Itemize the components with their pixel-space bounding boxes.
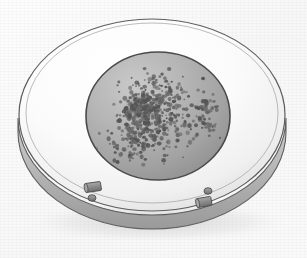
colony-dot [124, 106, 128, 110]
colony-dot [107, 130, 110, 133]
colony-dot [195, 133, 199, 137]
colony-dot [150, 101, 153, 104]
colony-dot [174, 115, 177, 119]
colony-dot [138, 84, 140, 86]
colony-dot [163, 76, 167, 80]
colony-dot [137, 100, 140, 103]
colony-dot [151, 137, 154, 140]
colony-dot [98, 132, 101, 135]
colony-dot [162, 112, 165, 114]
colony-dot [145, 122, 150, 127]
colony-dot [202, 91, 205, 94]
colony-dot [164, 86, 167, 89]
colony-dot [155, 115, 158, 118]
colony-dot [141, 99, 145, 102]
colony-dot [176, 94, 179, 97]
colony-dot [119, 114, 122, 116]
petri-dish-illustration [0, 0, 307, 258]
colony-dot [153, 149, 155, 151]
colony-dot [164, 93, 168, 97]
colony-dot [143, 91, 145, 93]
colony-dot [158, 75, 161, 78]
colony-dot [165, 114, 167, 116]
colony-dot [176, 127, 179, 130]
colony-dot [212, 93, 215, 96]
pellet-disc-left [88, 195, 96, 202]
colony-dot [109, 143, 111, 145]
colony-dot [167, 129, 169, 131]
colony-dot [187, 123, 192, 128]
colony-dot [145, 94, 148, 97]
colony-dot [146, 72, 148, 75]
pellet-disc-body [88, 195, 96, 202]
colony-dot [190, 103, 194, 107]
colony-dot [143, 67, 147, 70]
colony-dot [136, 109, 140, 113]
colony-dot [179, 132, 182, 136]
colony-dot [130, 137, 134, 141]
colony-dot [164, 124, 166, 126]
pellet-disc-body [204, 188, 212, 195]
colony-dot [190, 128, 192, 130]
colony-dot [160, 126, 163, 129]
colony-dot [117, 81, 120, 84]
colony-dot [144, 79, 146, 81]
colony-dot [146, 103, 149, 106]
colony-dot [136, 138, 139, 140]
colony-dot [155, 86, 159, 91]
colony-dot [144, 89, 146, 91]
colony-dot [199, 105, 203, 109]
colony-dot [123, 115, 125, 117]
colony-dot [198, 116, 202, 121]
colony-dot [177, 113, 180, 116]
colony-dot [113, 146, 116, 149]
colony-dot [144, 158, 147, 161]
colony-dot [152, 130, 154, 132]
colony-dot [132, 154, 134, 156]
colony-dot [134, 121, 139, 125]
colony-dot [204, 126, 206, 128]
colony-dot [203, 123, 205, 125]
colony-dot [172, 97, 174, 99]
colony-dot [208, 117, 211, 120]
colony-dot [203, 106, 208, 112]
colony-dot [184, 120, 187, 123]
colony-dot [126, 139, 128, 141]
colony-dot [127, 145, 129, 147]
colony-dot [156, 130, 160, 134]
colony-dot [196, 88, 199, 91]
colony-dot [116, 148, 119, 151]
pellet-disc-right [204, 188, 212, 195]
colony-dot [137, 93, 139, 95]
colony-dot [174, 103, 179, 108]
colony-dot [182, 107, 185, 110]
colony-dot [147, 97, 150, 101]
colony-dot [182, 113, 184, 115]
colony-dot [132, 116, 137, 121]
colony-dot [121, 134, 123, 136]
colony-dot [162, 147, 165, 150]
colony-dot [214, 123, 216, 125]
colony-dot [216, 105, 219, 108]
colony-dot [136, 113, 138, 115]
colony-dot [219, 137, 221, 139]
colony-dot [148, 109, 151, 112]
colony-dot [154, 81, 158, 84]
colony-dot [182, 117, 184, 119]
colony-dot [163, 163, 165, 165]
colony-dot [185, 130, 189, 135]
colony-dot [162, 131, 166, 136]
colony-dot [168, 146, 170, 148]
colony-dot [161, 90, 163, 92]
colony-dot [142, 85, 147, 89]
colony-dot [167, 83, 170, 85]
colony-dot [143, 148, 146, 151]
colony-dot [165, 145, 168, 148]
pellet-cylinder-left [84, 181, 102, 192]
colony-dot [188, 140, 192, 145]
colony-dot [119, 100, 122, 103]
colony-dot [182, 122, 186, 127]
colony-dot [155, 124, 157, 126]
colony-dot [116, 144, 119, 147]
colony-dot [168, 97, 172, 101]
